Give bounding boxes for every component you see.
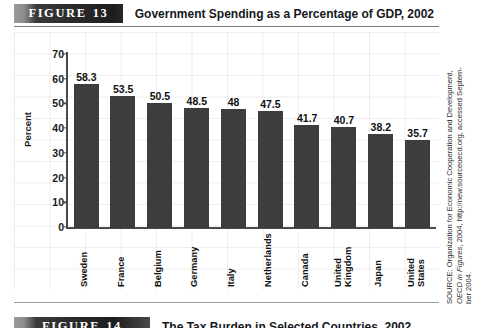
bar-series: 58.353.550.548.54847.541.740.738.235.7: [68, 54, 436, 228]
figure-header: FIGURE 13 Government Spending as a Perce…: [14, 4, 434, 23]
x-axis-label-slot: France: [105, 231, 142, 289]
x-axis-category-label: UnitedKingdom: [333, 247, 353, 287]
y-axis-tick-label: 70: [42, 48, 64, 60]
y-axis-tick-label: 20: [42, 172, 64, 184]
bar-value-label: 48: [215, 96, 252, 108]
chart-plot-area: Percent 010203040506070 58.353.550.548.5…: [14, 32, 439, 290]
x-axis-label-slot: Italy: [215, 231, 252, 289]
figure-title: Government Spending as a Percentage of G…: [135, 7, 434, 21]
figure-13-block: FIGURE 13 Government Spending as a Perce…: [0, 0, 489, 300]
x-axis-category-label-line: Sweden: [79, 252, 89, 287]
x-axis-category-label-line: Japan: [373, 260, 383, 287]
bar[interactable]: [74, 84, 99, 228]
bar-value-label: 35.7: [399, 127, 436, 139]
x-axis-category-label-line: Kingdom: [343, 247, 353, 287]
bar-group[interactable]: 47.5: [252, 54, 289, 228]
y-axis-tick-label: 60: [42, 73, 64, 85]
bar-group[interactable]: 35.7: [399, 54, 436, 228]
bar-group[interactable]: 38.2: [362, 54, 399, 228]
bar-value-label: 47.5: [252, 98, 289, 110]
source-line-2: , 2004, http://new.sourceoecd.org, acces…: [455, 67, 464, 246]
bar-group[interactable]: 41.7: [289, 54, 326, 228]
source-publication-title: OECD in Figures: [455, 247, 464, 304]
source-note-text: SOURCE: Organization for Economic Cooper…: [445, 18, 474, 304]
bar[interactable]: [258, 111, 283, 228]
x-axis-category-label-line: United: [406, 258, 416, 287]
bar[interactable]: [368, 134, 393, 228]
bar-group[interactable]: 58.3: [68, 54, 105, 228]
x-axis-category-label: Italy: [226, 268, 236, 287]
bar-value-label: 38.2: [362, 121, 399, 133]
bar-group[interactable]: 48: [215, 54, 252, 228]
figure-banner-word: FIGURE: [28, 6, 86, 21]
figure-14-banner-word: FIGURE: [42, 319, 100, 328]
x-axis-category-label: Germany: [189, 247, 199, 287]
bar-group[interactable]: 53.5: [105, 54, 142, 228]
y-axis-tick: [63, 177, 67, 178]
bar-value-label: 40.7: [326, 114, 363, 126]
x-axis-category-label-line: Italy: [226, 268, 236, 287]
figure-14-header: FIGURE 14 The Tax Burden in Selected Cou…: [14, 317, 411, 328]
bar[interactable]: [110, 96, 135, 228]
x-axis-category-label-line: Netherlands: [263, 233, 273, 287]
y-axis-tick-label: 40: [42, 122, 64, 134]
bar[interactable]: [184, 108, 209, 228]
x-axis-label-slot: UnitedStates: [399, 231, 436, 289]
x-axis-label-slot: Canada: [289, 231, 326, 289]
x-axis-category-label: Sweden: [79, 252, 89, 287]
bar[interactable]: [221, 109, 246, 228]
x-axis-category-label-line: Belgium: [153, 250, 163, 287]
source-line-1: SOURCE: Organization for Economic Cooper…: [445, 71, 454, 304]
figure-number-banner: FIGURE 13: [14, 4, 123, 23]
x-axis-label-slot: Netherlands: [252, 231, 289, 289]
x-axis-category-label: UnitedStates: [406, 258, 426, 287]
figure-14-title: The Tax Burden in Selected Countries, 20…: [162, 320, 411, 328]
x-axis-category-label: France: [116, 257, 126, 288]
figure-14-banner-number: 14: [106, 319, 122, 328]
bar-group[interactable]: 48.5: [178, 54, 215, 228]
y-axis-tick-labels: 010203040506070: [40, 54, 64, 227]
x-axis-label-slot: Belgium: [142, 231, 179, 289]
x-axis-category-label: Netherlands: [263, 233, 273, 287]
y-axis-title: Percent: [22, 112, 33, 147]
header-divider: [14, 26, 439, 27]
y-axis-tick-label: 30: [42, 147, 64, 159]
y-axis-tick-label: 10: [42, 196, 64, 208]
figure-14-block: FIGURE 14 The Tax Burden in Selected Cou…: [0, 300, 489, 328]
bar[interactable]: [294, 125, 319, 228]
y-axis-tick: [63, 78, 67, 79]
bar-value-label: 58.3: [68, 71, 105, 83]
bar[interactable]: [147, 103, 172, 228]
bar-value-label: 48.5: [178, 95, 215, 107]
bar-group[interactable]: 40.7: [326, 54, 363, 228]
x-axis-category-label-line: France: [116, 257, 126, 288]
y-axis-tick-label: 50: [42, 97, 64, 109]
bar[interactable]: [331, 127, 356, 228]
y-axis-tick: [63, 53, 67, 54]
x-axis-category-label: Canada: [300, 253, 310, 287]
x-axis-category-labels: SwedenFranceBelgiumGermanyItalyNetherlan…: [68, 231, 436, 289]
x-axis-category-label-line: States: [416, 258, 426, 287]
bar-group[interactable]: 50.5: [142, 54, 179, 228]
y-axis-tick: [63, 202, 67, 203]
y-axis-tick: [63, 152, 67, 153]
x-axis-category-label-line: Canada: [300, 253, 310, 287]
x-axis-label-slot: Germany: [178, 231, 215, 289]
bar-value-label: 53.5: [105, 83, 142, 95]
y-axis-tick: [63, 127, 67, 128]
x-axis-category-label-line: United: [333, 258, 343, 287]
x-axis-category-label-line: Germany: [189, 247, 199, 287]
x-axis-category-label: Japan: [373, 260, 383, 287]
y-axis-tick-label: 0: [42, 221, 64, 233]
bar[interactable]: [405, 140, 430, 228]
source-note: SOURCE: Organization for Economic Cooper…: [445, 18, 485, 308]
x-axis-label-slot: UnitedKingdom: [326, 231, 363, 289]
x-axis-label-slot: Japan: [362, 231, 399, 289]
y-axis-tick: [63, 103, 67, 104]
figure-14-number-banner: FIGURE 14: [14, 317, 150, 328]
figure-banner-number: 13: [93, 6, 109, 21]
x-axis-category-label: Belgium: [153, 250, 163, 287]
figure-14-divider: [14, 302, 439, 303]
bar-value-label: 41.7: [289, 112, 326, 124]
x-axis-label-slot: Sweden: [68, 231, 105, 289]
